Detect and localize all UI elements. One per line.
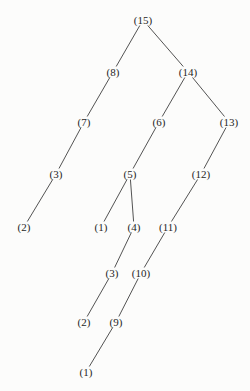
diagram-page: (15)(8)(14)(7)(6)(13)(3)(5)(12)(2)(1)(4)… (0, 0, 250, 391)
tree-node-label: (2) (78, 316, 91, 329)
tree-edge (84, 72, 113, 122)
tree-node-label: (8) (107, 66, 120, 79)
tree-edge (113, 20, 143, 72)
tree-node-label: (1) (80, 366, 93, 379)
tree-node-label: (3) (106, 267, 119, 280)
tree-node-label: (9) (110, 316, 123, 329)
tree-node-label: (10) (132, 267, 151, 280)
tree-edge (116, 273, 141, 322)
tree-edge (56, 122, 84, 174)
tree-node-label: (11) (159, 221, 177, 234)
tree-edge (201, 122, 229, 174)
tree-node-label: (15) (134, 14, 153, 27)
tree-node-label: (2) (18, 221, 31, 234)
tree-edge (159, 72, 188, 122)
tree-edge (86, 322, 116, 372)
tree-edge (101, 174, 130, 227)
tree-diagram: (15)(8)(14)(7)(6)(13)(3)(5)(12)(2)(1)(4)… (0, 0, 250, 391)
tree-node-label: (14) (179, 66, 198, 79)
tree-node-label: (5) (124, 168, 137, 181)
tree-edge (188, 72, 229, 122)
tree-node-label: (13) (220, 116, 239, 129)
tree-node-label: (1) (95, 221, 108, 234)
tree-node-label: (3) (50, 168, 63, 181)
tree-nodes: (15)(8)(14)(7)(6)(13)(3)(5)(12)(2)(1)(4)… (15, 14, 241, 379)
tree-node-label: (4) (128, 221, 141, 234)
tree-edge (130, 174, 134, 227)
tree-node-label: (7) (78, 116, 91, 129)
tree-node-label: (6) (153, 116, 166, 129)
tree-edge (130, 122, 159, 174)
tree-edge (168, 174, 201, 227)
tree-edge (24, 174, 56, 227)
tree-edge (143, 20, 188, 72)
tree-node-label: (12) (192, 168, 211, 181)
tree-edge (84, 273, 112, 322)
